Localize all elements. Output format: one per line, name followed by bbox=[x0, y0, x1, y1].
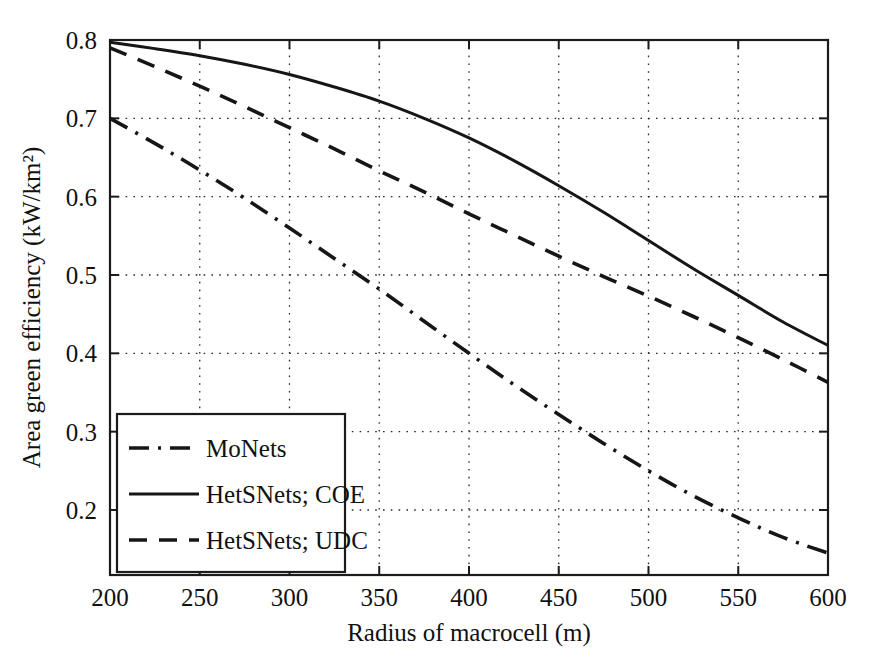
legend-label-hetsnets-udc: HetSNets; UDC bbox=[206, 527, 368, 554]
x-tick-label: 450 bbox=[540, 584, 578, 611]
y-axis-tick-labels: 0.20.30.40.50.60.70.8 bbox=[66, 27, 98, 524]
x-tick-label: 300 bbox=[271, 584, 309, 611]
x-axis-tick-labels: 200250300350400450500550600 bbox=[91, 584, 847, 611]
y-tick-label: 0.7 bbox=[66, 105, 97, 132]
x-tick-label: 500 bbox=[630, 584, 668, 611]
x-tick-label: 400 bbox=[450, 584, 488, 611]
line-chart: 200250300350400450500550600 0.20.30.40.5… bbox=[0, 0, 888, 658]
x-tick-label: 350 bbox=[361, 584, 399, 611]
chart-legend: MoNetsHetSNets; COEHetSNets; UDC bbox=[117, 414, 368, 572]
chart-figure: 200250300350400450500550600 0.20.30.40.5… bbox=[0, 0, 888, 658]
x-tick-label: 250 bbox=[181, 584, 219, 611]
y-tick-label: 0.5 bbox=[66, 262, 97, 289]
x-axis-title: Radius of macrocell (m) bbox=[347, 619, 591, 647]
x-tick-label: 200 bbox=[91, 584, 129, 611]
y-tick-label: 0.8 bbox=[66, 27, 97, 54]
y-tick-label: 0.2 bbox=[66, 497, 97, 524]
legend-label-monets: MoNets bbox=[206, 435, 287, 462]
y-tick-label: 0.3 bbox=[66, 419, 97, 446]
y-axis-title-group: Area green efficiency (kW/km²) bbox=[18, 147, 46, 468]
series-line-hetsnets-udc bbox=[110, 48, 828, 382]
legend-label-hetsnets-coe: HetSNets; COE bbox=[206, 481, 365, 508]
x-tick-label: 600 bbox=[809, 584, 847, 611]
y-tick-label: 0.6 bbox=[66, 184, 97, 211]
x-tick-label: 550 bbox=[720, 584, 758, 611]
y-tick-label: 0.4 bbox=[66, 340, 98, 367]
y-axis-title: Area green efficiency (kW/km²) bbox=[18, 147, 46, 468]
